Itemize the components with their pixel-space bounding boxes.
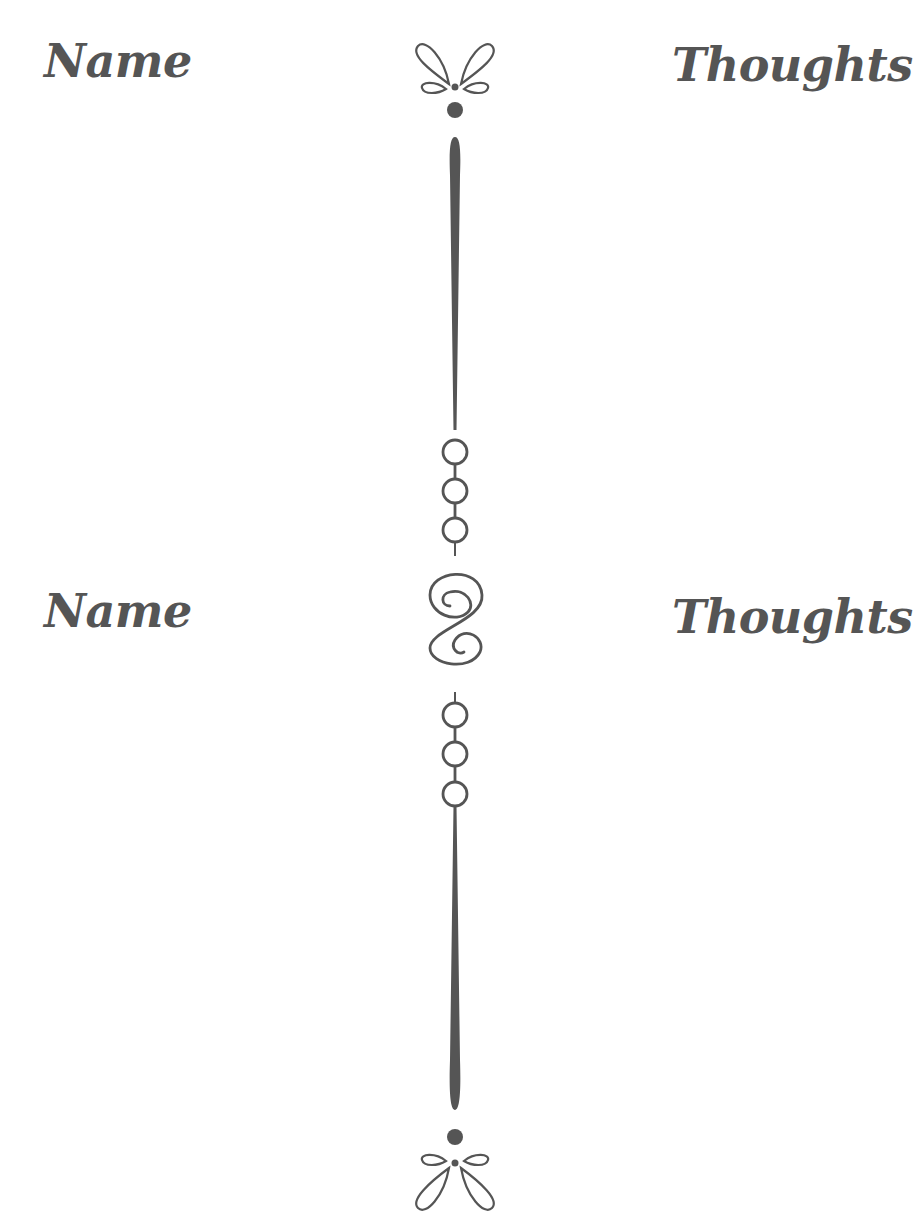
section-2-thoughts-heading: Thoughts bbox=[672, 594, 913, 640]
dot-icon bbox=[447, 1129, 463, 1145]
dot-icon bbox=[447, 102, 463, 118]
section-1-thoughts-heading: Thoughts bbox=[672, 42, 913, 88]
dot-icon bbox=[452, 1160, 459, 1167]
three-circle-chain-icon bbox=[443, 692, 467, 806]
s-swirl-icon bbox=[430, 574, 482, 664]
section-2-name-heading: Name bbox=[44, 588, 192, 634]
tapered-line bbox=[450, 806, 461, 1110]
section-1-name-heading: Name bbox=[44, 38, 192, 84]
three-circle-chain-icon bbox=[443, 440, 467, 556]
bow-flourish-icon bbox=[416, 1155, 494, 1210]
dot-icon bbox=[452, 84, 459, 91]
bow-flourish-icon bbox=[416, 44, 494, 93]
tapered-line bbox=[450, 137, 461, 430]
